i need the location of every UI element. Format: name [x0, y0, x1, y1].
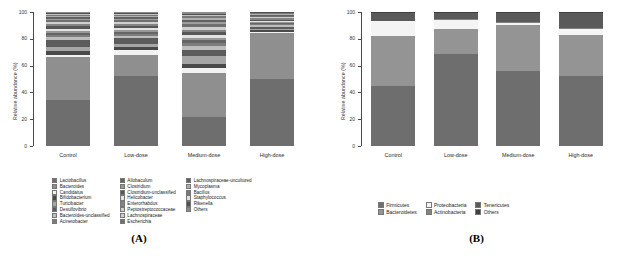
legend-item[interactable]: Bacteroidetes [378, 209, 417, 215]
stacked-bar[interactable] [114, 12, 158, 146]
bar-segment [371, 13, 415, 21]
y-tick-label: 0 [11, 144, 27, 149]
legend-item[interactable]: Helicobacter [120, 195, 176, 200]
legend-swatch-icon [186, 190, 191, 195]
legend-label: Desulfovibrio [60, 207, 87, 212]
legend-item[interactable]: Mycoplasma [186, 184, 252, 189]
legend-item[interactable]: Allobaculum [120, 178, 176, 183]
panel-b: Relative abundance (%) 020406080100 Cont… [318, 0, 635, 256]
legend-label: Escherichia [127, 219, 151, 224]
bar-slot [114, 12, 158, 146]
legend-item[interactable]: Bacteroides [52, 184, 110, 189]
stacked-bar[interactable] [371, 12, 415, 146]
legend-swatch-icon [52, 184, 57, 189]
legend-item[interactable]: Bifidobacterium [52, 195, 110, 200]
y-tick-label: 60 [339, 63, 355, 68]
legend-item[interactable]: Lachnospiraceae [120, 213, 176, 218]
stacked-bar[interactable] [434, 12, 478, 146]
legend-label: Lactobacillus [60, 178, 87, 183]
legend-swatch-icon [475, 209, 481, 215]
panel-a-plot-area [34, 12, 306, 146]
legend-item[interactable]: Actinobacteria [426, 209, 467, 215]
panel-b-plot-area [362, 12, 612, 146]
legend-label: Clostridium [127, 184, 150, 189]
legend-label: Tenericutes [484, 202, 510, 208]
panel-b-category-labels: ControlLow-doseMedium-doseHigh-dose [362, 152, 612, 158]
bar-segment [496, 13, 540, 22]
stacked-bar[interactable] [250, 12, 294, 146]
legend-swatch-icon [120, 219, 125, 224]
legend-item[interactable]: Peptostreptococcaceae [120, 207, 176, 212]
legend-swatch-icon [186, 207, 191, 212]
legend-label: Lachnospiraceae-uncultured [194, 178, 252, 183]
legend-swatch-icon [120, 213, 125, 218]
category-label: Medium-dose [487, 152, 550, 158]
legend-item[interactable]: Firmicutes [378, 202, 417, 208]
legend-item[interactable]: Candidatus [52, 190, 110, 195]
stacked-bar[interactable] [182, 12, 226, 146]
legend-item[interactable]: Acinetobacter [52, 219, 110, 224]
legend-item[interactable]: Desulfovibrio [52, 207, 110, 212]
y-tick-mark [358, 12, 361, 13]
legend-item[interactable]: Lachnospiraceae-uncultured [186, 178, 252, 183]
legend-swatch-icon [186, 195, 191, 200]
bar-segment [434, 20, 478, 29]
legend-item[interactable]: Lactobacillus [52, 178, 110, 183]
y-tick-mark [358, 119, 361, 120]
legend-swatch-icon [120, 207, 125, 212]
bar-segment [371, 36, 415, 86]
stacked-bar[interactable] [559, 12, 603, 146]
legend-item[interactable]: Bacillus [186, 190, 252, 195]
legend-item[interactable]: Bacteroides-unclassified [52, 213, 110, 218]
y-tick-mark [30, 146, 33, 147]
legend-column: FirmicutesBacteroidetes [378, 202, 417, 215]
legend-item[interactable]: Tenericutes [475, 202, 509, 208]
panel-a-letter: (A) [0, 232, 298, 244]
bar-segment [182, 73, 226, 117]
legend-label: Mycoplasma [194, 184, 220, 189]
legend-label: Allobaculum [127, 178, 152, 183]
bar-slot [496, 12, 540, 146]
category-label: Low-dose [425, 152, 488, 158]
y-tick-mark [358, 92, 361, 93]
y-tick-label: 100 [11, 10, 27, 15]
legend-label: Bacillus [194, 190, 210, 195]
panel-a-bars [34, 12, 306, 146]
bar-segment [371, 86, 415, 146]
panel-b-letter: (B) [318, 232, 635, 244]
y-tick-label: 80 [11, 36, 27, 41]
legend-item[interactable]: Enterorhabdus [120, 201, 176, 206]
legend-swatch-icon [186, 201, 191, 206]
legend-item[interactable]: Clostridium-unclassified [120, 190, 176, 195]
bar-segment [114, 76, 158, 146]
panel-a: Relative abundance (%) 020406080100 Cont… [0, 0, 318, 256]
bar-slot [46, 12, 90, 146]
panel-b-bars [362, 12, 612, 146]
legend-swatch-icon [426, 209, 432, 215]
legend-swatch-icon [52, 207, 57, 212]
stacked-bar[interactable] [46, 12, 90, 146]
y-tick-mark [30, 12, 33, 13]
bar-slot [371, 12, 415, 146]
legend-label: Bacteroides-unclassified [60, 213, 110, 218]
legend-item[interactable]: Others [475, 209, 509, 215]
legend-item[interactable]: Proteobacteria [426, 202, 467, 208]
stacked-bar[interactable] [496, 12, 540, 146]
legend-column: ProteobacteriaActinobacteria [426, 202, 467, 215]
legend-swatch-icon [52, 201, 57, 206]
panel-a-category-labels: ControlLow-doseMedium-doseHigh-dose [34, 152, 306, 158]
y-tick-label: 80 [339, 36, 355, 41]
bar-segment [496, 25, 540, 71]
legend-item[interactable]: Escherichia [120, 219, 176, 224]
bar-segment [559, 13, 603, 28]
legend-item[interactable]: Turicibacter [52, 201, 110, 206]
y-tick-label: 20 [11, 117, 27, 122]
bar-slot [559, 12, 603, 146]
legend-item[interactable]: Others [186, 207, 252, 212]
legend-swatch-icon [426, 202, 432, 208]
legend-item[interactable]: Clostridium [120, 184, 176, 189]
legend-label: Proteobacteria [434, 202, 467, 208]
legend-item[interactable]: Rikenella [186, 201, 252, 206]
legend-item[interactable]: Staphylococcus [186, 195, 252, 200]
category-label: Control [362, 152, 425, 158]
